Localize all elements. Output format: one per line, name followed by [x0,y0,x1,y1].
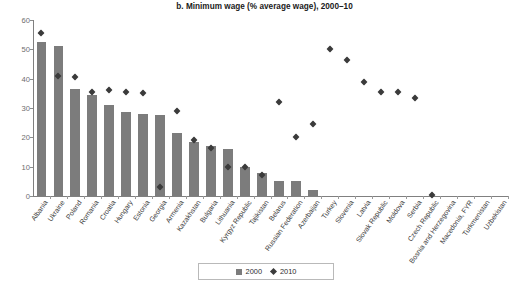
y-axis-tick-label: 40 [22,74,30,83]
bar-russian-federation [291,181,301,196]
x-axis-label-ukraine: Ukraine [47,199,66,222]
chart-container: b. Minimum wage (% average wage), 2000–1… [0,0,529,287]
bar-romania [87,95,97,196]
x-axis-tick-mark [440,196,441,199]
y-axis-tick-mark [30,137,33,138]
point-moldova [394,88,401,95]
bar-azerbaijan [308,190,318,196]
bar-estonia [138,114,148,196]
bar-bulgaria [206,146,216,196]
x-axis-tick-mark [271,196,272,199]
point-czech-republic [428,191,435,198]
legend-item-2000: 2000 [236,267,262,276]
x-axis-tick-mark [406,196,407,199]
x-axis-tick-mark [169,196,170,199]
bar-poland [70,89,80,196]
x-axis-tick-mark [423,196,424,199]
x-axis-tick-mark [321,196,322,199]
diamond-marker-icon [270,268,277,275]
x-axis-tick-mark [287,196,288,199]
x-axis-tick-mark [508,196,509,199]
y-axis-tick-mark [30,196,33,197]
x-axis-tick-mark [67,196,68,199]
x-axis-tick-mark [355,196,356,199]
point-armenia [174,107,181,114]
y-axis-tick-label: 30 [22,104,30,113]
point-russian-federation [292,134,299,141]
chart-title: b. Minimum wage (% average wage), 2000–1… [0,2,529,11]
point-slovak-republic [377,88,384,95]
point-estonia [140,90,147,97]
square-marker-icon [236,269,242,275]
x-axis-tick-mark [152,196,153,199]
y-axis-tick-mark [30,167,33,168]
y-axis-tick-label: 10 [22,162,30,171]
point-belarus [275,99,282,106]
x-axis-tick-mark [101,196,102,199]
chart-legend: 2000 2010 [198,263,334,280]
point-poland [72,74,79,81]
x-axis-tick-mark [118,196,119,199]
point-azerbaijan [309,121,316,128]
legend-label-2000: 2000 [246,267,262,276]
x-axis-label-slovak-republic: Slovak Republic [354,199,388,244]
bar-croatia [104,105,114,196]
x-axis-tick-mark [50,196,51,199]
legend-item-2010: 2010 [271,267,296,276]
x-axis-tick-mark [254,196,255,199]
y-axis-tick-label: 20 [22,133,30,142]
x-axis-tick-mark [372,196,373,199]
y-axis-tick-mark [30,20,33,21]
point-serbia [411,94,418,101]
x-axis-label-latvia: Latvia [355,199,371,218]
point-hungary [123,88,130,95]
x-axis-tick-mark [457,196,458,199]
point-croatia [106,87,113,94]
bar-belarus [274,181,284,196]
x-axis-tick-mark [237,196,238,199]
y-axis-tick-mark [30,108,33,109]
y-axis-tick-mark [30,49,33,50]
x-axis-tick-mark [186,196,187,199]
point-slovenia [343,56,350,63]
legend-label-2010: 2010 [280,267,296,276]
bar-armenia [172,133,182,196]
x-axis-tick-mark [203,196,204,199]
x-axis-tick-mark [304,196,305,199]
x-axis-tick-mark [220,196,221,199]
x-axis-tick-mark [338,196,339,199]
bar-albania [37,42,47,196]
point-turkey [326,46,333,53]
x-axis-tick-mark [84,196,85,199]
bar-lithuania [223,149,233,196]
y-axis-tick-label: 50 [22,45,30,54]
y-axis-tick-label: 60 [22,16,30,25]
bar-ukraine [54,46,64,196]
x-axis-tick-mark [474,196,475,199]
x-axis-tick-mark [491,196,492,199]
x-axis-tick-mark [135,196,136,199]
point-latvia [360,78,367,85]
bar-kazakhstan [189,142,199,196]
y-axis-tick-mark [30,79,33,80]
bar-kyrgyz-republic [240,167,250,196]
plot-area: 0102030405060 [33,20,508,196]
bar-hungary [121,112,131,196]
point-albania [38,30,45,37]
x-axis-tick-mark [389,196,390,199]
x-axis-label-serbia: Serbia [405,199,422,219]
